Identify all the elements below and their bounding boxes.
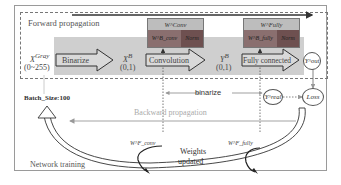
x-gray-range: (0~255)	[24, 63, 50, 72]
y-out-node: Y^out	[303, 52, 321, 70]
x-gray-label: XGray	[30, 52, 49, 64]
w-conv-top: W^Conv	[148, 19, 203, 30]
backward-propagation-label: Backward propagation	[134, 108, 207, 117]
binarize-label: binarize	[195, 88, 221, 97]
xb-range: (0,1)	[120, 63, 135, 72]
yb-range: (0,1)	[216, 63, 231, 72]
updated-label: updated	[178, 157, 203, 166]
xb-label: XB	[123, 52, 132, 64]
w-fully-top: W^Fully	[244, 19, 299, 30]
w-fully-box: W^Fully W^B_fully Norm	[243, 18, 300, 48]
loss-node: Loss	[302, 88, 324, 106]
convolution-arrow-label: Convolution	[149, 56, 189, 65]
weights-label: Weights	[180, 147, 206, 156]
w-b-conv: W^B_conv	[148, 30, 181, 47]
network-training-label: Network training	[30, 160, 85, 169]
batch-size-label: Batch_Size:100	[24, 94, 70, 102]
fully-connected-arrow-label: Fully connected	[243, 56, 291, 65]
binarize-arrow-label: Binarize	[62, 56, 89, 65]
y-real-node: Y^real	[263, 89, 283, 105]
forward-propagation-label: Forward propagation	[28, 18, 100, 28]
w-fully-norm: Norm	[277, 30, 299, 47]
yb-label: YB	[220, 52, 229, 64]
wf-conv-label: W^F_conv	[130, 140, 156, 146]
w-b-fully: W^B_fully	[244, 30, 277, 47]
w-conv-box: W^Conv W^B_conv Norm	[147, 18, 204, 48]
w-conv-norm: Norm	[181, 30, 203, 47]
wf-fully-label: W^F_fully	[228, 140, 253, 146]
